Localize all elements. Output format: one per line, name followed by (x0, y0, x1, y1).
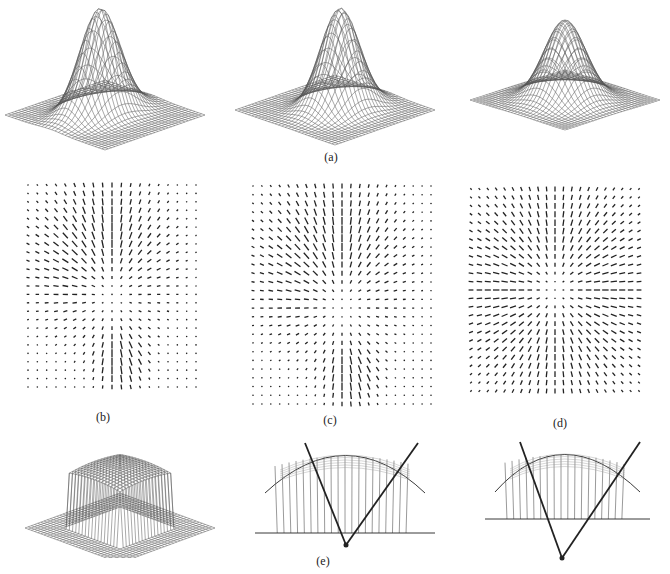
surface-mesh-a1 (0, 0, 220, 160)
surface-mesh-a2 (225, 0, 445, 150)
caption-a: (a) (324, 150, 337, 165)
surface-mesh-a3 (460, 5, 670, 140)
caption-c: (c) (323, 413, 336, 428)
vector-field-b (25, 182, 200, 392)
vector-field-c (250, 183, 435, 408)
caption-e: (e) (316, 554, 329, 569)
caption-d: (d) (553, 416, 567, 431)
surface-mesh-e (20, 428, 220, 558)
vector-field-d (468, 186, 643, 396)
ray-diagram-e2 (480, 432, 655, 562)
caption-b: (b) (96, 410, 110, 425)
ray-diagram-e1 (250, 430, 440, 550)
